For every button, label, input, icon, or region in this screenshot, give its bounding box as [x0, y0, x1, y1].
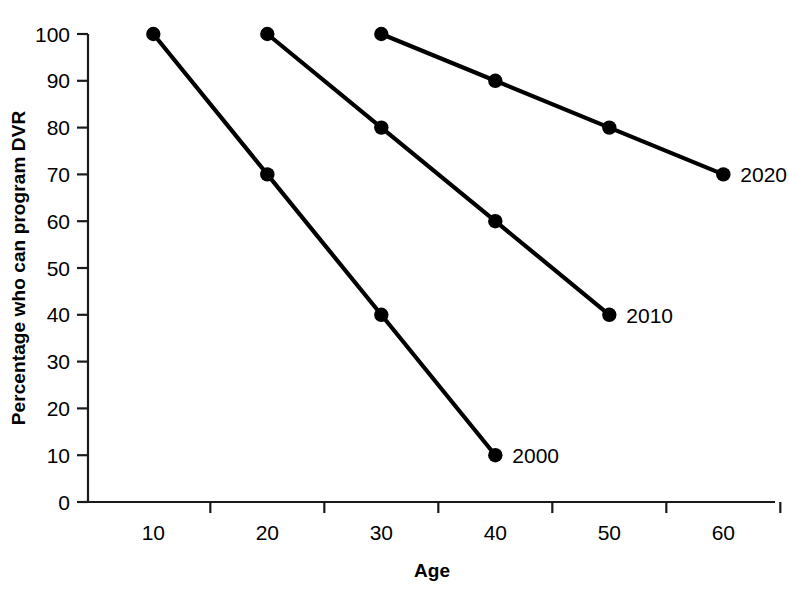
y-axis-tick-label: 40 [47, 303, 70, 326]
line-chart: 0102030405060708090100 102030405060 2000… [0, 0, 789, 597]
chart-container: 0102030405060708090100 102030405060 2000… [0, 0, 789, 597]
data-point-marker[interactable] [374, 27, 388, 41]
y-axis-tick-label: 70 [47, 163, 70, 186]
data-point-marker[interactable] [488, 448, 502, 462]
x-axis-title: Age [414, 560, 450, 581]
y-axis-tick-label: 0 [58, 491, 70, 514]
y-axis-tick-label: 10 [47, 444, 70, 467]
data-point-marker[interactable] [374, 120, 388, 134]
x-axis-tick-label: 20 [256, 521, 279, 544]
y-axis-tick-label: 80 [47, 116, 70, 139]
x-axis-tick-label: 40 [484, 521, 507, 544]
data-point-marker[interactable] [260, 167, 274, 181]
series-label-2020: 2020 [740, 163, 787, 186]
x-axis-tick-label: 30 [370, 521, 393, 544]
data-point-marker[interactable] [146, 27, 160, 41]
y-axis-tick-label: 50 [47, 257, 70, 280]
series-label-2000: 2000 [512, 444, 559, 467]
data-point-marker[interactable] [602, 120, 616, 134]
x-axis-tick-label: 10 [142, 521, 165, 544]
data-point-marker[interactable] [488, 214, 502, 228]
y-axis-tick-label: 60 [47, 210, 70, 233]
chart-background [0, 0, 789, 597]
y-axis-tick-label: 20 [47, 397, 70, 420]
y-axis-tick-label: 90 [47, 69, 70, 92]
series-label-2010: 2010 [626, 304, 673, 327]
x-axis-tick-label: 50 [598, 521, 621, 544]
data-point-marker[interactable] [260, 27, 274, 41]
y-axis-title: Percentage who can program DVR [8, 111, 29, 426]
x-axis-tick-label: 60 [712, 521, 735, 544]
data-point-marker[interactable] [602, 308, 616, 322]
data-point-marker[interactable] [488, 74, 502, 88]
data-point-marker[interactable] [374, 308, 388, 322]
data-point-marker[interactable] [716, 167, 730, 181]
y-axis-tick-label: 30 [47, 350, 70, 373]
y-axis-tick-label: 100 [35, 23, 70, 46]
